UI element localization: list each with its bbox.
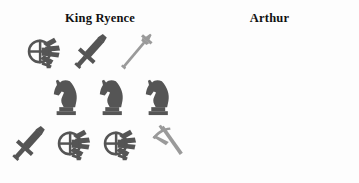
panel-title-king-ryence: King Ryence: [0, 11, 200, 26]
sword-icon: [6, 120, 52, 166]
crossbow-icon: [98, 120, 144, 166]
panel-king-ryence: King Ryence: [0, 0, 200, 183]
crossbow-icon: [52, 120, 98, 166]
pickaxe-icon: [144, 120, 190, 166]
panel-title-arthur: Arthur: [190, 11, 349, 26]
knight-chess-piece-icon: [134, 74, 180, 120]
icon-row-left-3: [6, 120, 190, 166]
spear-icon: [114, 28, 160, 74]
panel-arthur: Arthur: [200, 0, 359, 183]
puzzle-board: King Ryence: [0, 0, 359, 183]
icon-row-left-1: [22, 28, 160, 74]
crossbow-icon: [22, 28, 68, 74]
knight-chess-piece-icon: [42, 74, 88, 120]
icon-row-left-2: [42, 74, 180, 120]
sword-icon: [68, 28, 114, 74]
knight-chess-piece-icon: [88, 74, 134, 120]
